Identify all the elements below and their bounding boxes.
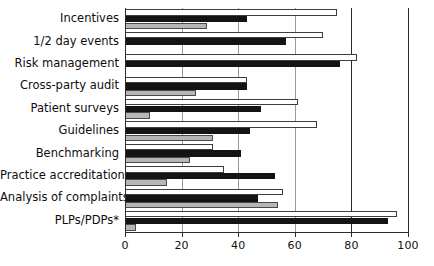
gridline-60	[295, 8, 296, 232]
tick-label-60: 60	[288, 239, 302, 252]
tick-label-40: 40	[231, 239, 245, 252]
bar-series-gray-7	[125, 179, 167, 185]
tick-mark-40	[238, 232, 239, 237]
tick-mark-100	[408, 232, 409, 237]
category-label-2: Risk management	[0, 57, 119, 70]
plot-area	[125, 8, 408, 232]
bar-series-white-1	[125, 32, 323, 38]
gridline-80	[351, 8, 352, 232]
tick-mark-20	[182, 232, 183, 237]
bar-series-black-3	[125, 83, 247, 89]
bar-series-black-5	[125, 128, 250, 134]
bar-series-black-2	[125, 61, 340, 67]
category-label-4: Patient surveys	[0, 102, 119, 115]
bar-series-white-5	[125, 121, 317, 127]
bar-series-black-4	[125, 106, 261, 112]
category-label-3: Cross-party audit	[0, 79, 119, 92]
bar-series-white-7	[125, 166, 224, 172]
bar-series-black-9	[125, 218, 388, 224]
bar-series-black-7	[125, 173, 275, 179]
bar-series-gray-0	[125, 23, 207, 29]
category-label-8: Analysis of complaints	[0, 191, 119, 204]
y-axis-line	[125, 8, 126, 232]
tick-mark-80	[351, 232, 352, 237]
bar-series-white-0	[125, 9, 337, 15]
bar-series-gray-9	[125, 224, 136, 230]
horizontal-grouped-bar-chart: Incentives1/2 day eventsRisk managementC…	[0, 0, 434, 266]
bar-series-white-6	[125, 144, 213, 150]
bar-series-gray-3	[125, 90, 196, 96]
category-label-0: Incentives	[0, 12, 119, 25]
bar-series-white-4	[125, 99, 298, 105]
bar-series-black-0	[125, 16, 247, 22]
bar-series-black-8	[125, 195, 258, 201]
tick-label-20: 20	[174, 239, 188, 252]
bar-series-white-3	[125, 77, 247, 83]
tick-label-100: 100	[397, 239, 419, 252]
bar-series-white-9	[125, 211, 397, 217]
bar-series-gray-4	[125, 112, 150, 118]
bar-series-gray-6	[125, 157, 190, 163]
bar-series-white-2	[125, 54, 357, 60]
gridline-100	[408, 8, 409, 232]
bar-series-gray-8	[125, 202, 278, 208]
tick-mark-0	[125, 232, 126, 237]
bar-series-gray-5	[125, 135, 213, 141]
bar-series-white-8	[125, 189, 283, 195]
category-label-column: Incentives1/2 day eventsRisk managementC…	[0, 0, 122, 266]
bar-series-black-1	[125, 38, 286, 44]
category-label-9: PLPs/PDPs*	[0, 214, 119, 227]
bar-series-black-6	[125, 150, 241, 156]
category-label-6: Benchmarking	[0, 147, 119, 160]
category-label-7: Practice accreditation	[0, 169, 119, 182]
tick-mark-60	[295, 232, 296, 237]
x-axis-line	[125, 232, 409, 233]
tick-label-80: 80	[344, 239, 358, 252]
tick-label-0: 0	[121, 239, 128, 252]
category-label-5: Guidelines	[0, 124, 119, 137]
category-label-1: 1/2 day events	[0, 35, 119, 48]
